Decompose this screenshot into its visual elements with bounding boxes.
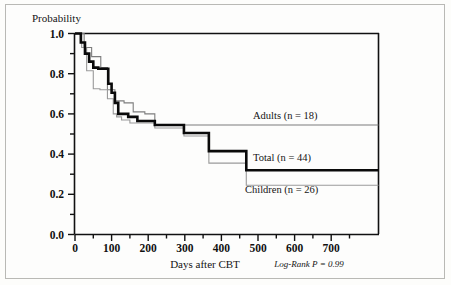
x-tick-label: 600: [286, 242, 304, 254]
x-axis-title: Days after CBT: [170, 258, 240, 270]
log-rank-annotation: Log-Rank P = 0.99: [273, 259, 344, 269]
y-tick-label: 0.8: [50, 68, 65, 80]
x-tick-labels: 0 100 200 300 400 500 600 700: [72, 242, 340, 254]
x-tick-label: 700: [323, 242, 341, 254]
series-line-total: [75, 34, 379, 171]
x-axis-ticks: [75, 235, 350, 242]
x-tick-label: 300: [176, 242, 194, 254]
x-tick-label: 200: [140, 242, 158, 254]
series-label-total: Total (n = 44): [253, 152, 311, 164]
y-tick-label: 0.4: [50, 148, 65, 160]
y-tick-label: 0.6: [50, 108, 65, 120]
x-tick-label: 0: [72, 242, 78, 254]
series-label-children: Children (n = 26): [245, 184, 319, 196]
plot-axes: [75, 33, 380, 235]
series-curves: [75, 34, 379, 186]
x-tick-label: 400: [213, 242, 231, 254]
y-axis-title: Probability: [32, 12, 81, 24]
y-tick-label: 0.2: [50, 188, 65, 200]
y-tick-label: 0.0: [50, 229, 65, 241]
y-axis-ticks: [68, 34, 75, 235]
y-tick-label: 1.0: [50, 28, 65, 40]
series-label-adults: Adults (n = 18): [253, 110, 318, 122]
x-tick-label: 100: [103, 242, 121, 254]
y-tick-labels: 1.0 0.8 0.6 0.4 0.2 0.0: [50, 28, 65, 241]
series-line-adults: [75, 34, 379, 125]
chart-page: 1.0 0.8 0.6 0.4 0.2 0.0 0 100 200 300 40…: [0, 0, 451, 285]
series-line-children: [75, 34, 379, 186]
x-tick-label: 500: [249, 242, 267, 254]
kaplan-meier-chart: 1.0 0.8 0.6 0.4 0.2 0.0 0 100 200 300 40…: [0, 0, 451, 285]
